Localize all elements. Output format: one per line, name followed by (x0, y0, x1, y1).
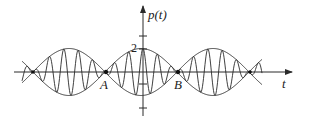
amplitude-label: 2 (131, 42, 137, 54)
node-left (31, 70, 35, 74)
y-axis-label: p(t) (148, 8, 167, 21)
node-label-a: A (100, 78, 108, 91)
node-B (176, 70, 180, 74)
x-axis-label: t (282, 77, 286, 90)
node-A (104, 70, 108, 74)
node-label-b: B (174, 78, 182, 91)
node-right (248, 70, 252, 74)
